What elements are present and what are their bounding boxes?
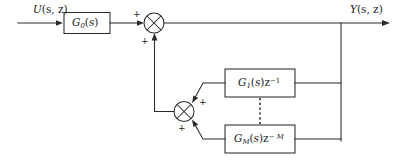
- sum-feedback-junction: [174, 102, 194, 122]
- diagram-canvas: [0, 0, 405, 165]
- wire-feedback-block-m-to-sum-feedback: [192, 120, 225, 140]
- block-diagram-figure: U(s, z) Y(s, z) G0(s) G1(s)z−1 GM(s)z− M…: [0, 0, 405, 165]
- sum-feedback-sign-bottom: +: [178, 124, 186, 133]
- feedback-block-m-label: GM(s)z− M: [234, 133, 284, 146]
- sum-feedback-sign-top: +: [199, 98, 207, 107]
- forward-block-label: G0(s): [72, 17, 98, 30]
- wire-sum-feedback-to-sum-output: [152, 33, 174, 112]
- wire-sum-output-to-output: [164, 20, 390, 26]
- sum-output-sign-bottom: +: [141, 37, 149, 46]
- wire-feedback-block-1-to-sum-feedback: [192, 83, 225, 103]
- output-signal-label: Y(s, z): [350, 4, 383, 15]
- input-signal-label: U(s, z): [33, 4, 68, 15]
- wire-input-to-forward-block: [18, 20, 63, 26]
- feedback-block-1-label: G1(s)z−1: [238, 77, 280, 90]
- sum-output-sign-top: +: [133, 10, 141, 19]
- wire-forward-block-to-sum-output: [110, 20, 144, 26]
- sum-output-junction: [144, 13, 164, 33]
